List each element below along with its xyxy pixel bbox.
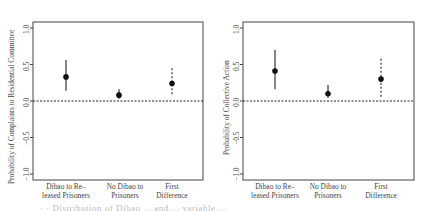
left-ytick-neg1: −1.0: [22, 167, 31, 181]
point-estimate: [378, 76, 384, 82]
left-xtick-first-diff: First Difference: [142, 183, 202, 200]
right-ytick-1: 1.0: [232, 25, 241, 34]
left-ytick-1: 1.0: [22, 25, 31, 34]
figure-caption: · · Distribution of Dibao ... and ... va…: [40, 203, 226, 211]
right-ytick-0: 0.0: [232, 98, 241, 107]
right-xtick-no-dibao: No Dibao to Prisoners: [298, 183, 358, 200]
right-ytick-neg1: −1.0: [232, 167, 241, 181]
right-xtick-first-diff: First Difference: [351, 183, 411, 200]
left-xtick-released: Dibao to Re– leased Prisoners: [36, 183, 96, 200]
left-chart-panel: Probability of Complaints to Residential…: [0, 0, 210, 200]
point-estimate: [272, 68, 278, 74]
point-estimate: [116, 92, 122, 98]
right-xtick-released: Dibao to Re– leased Prisoners: [245, 183, 305, 200]
right-ytick-neg05: −0.5: [232, 131, 241, 145]
left-y-axis-label: Probability of Complaints to Residential…: [7, 30, 16, 184]
left-ytick-neg05: −0.5: [22, 131, 31, 145]
right-y-axis-label: Probability of Collective Action: [222, 60, 231, 155]
left-plot-area: [0, 0, 210, 200]
right-ytick-05: 0.5: [232, 62, 241, 71]
point-estimate: [63, 74, 69, 80]
point-estimate: [169, 81, 175, 87]
right-chart-panel: Probability of Collective Action −1.0 −0…: [210, 0, 421, 200]
point-estimate: [325, 91, 331, 97]
right-plot-area: [210, 0, 421, 200]
left-ytick-05: 0.5: [22, 62, 31, 71]
left-ytick-0: 0.0: [22, 98, 31, 107]
